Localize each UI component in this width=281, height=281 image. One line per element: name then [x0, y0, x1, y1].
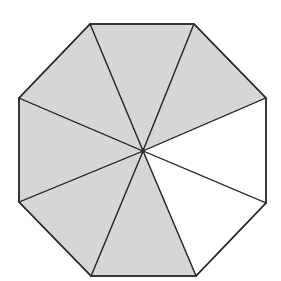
octagon-diagram: [0, 0, 281, 281]
